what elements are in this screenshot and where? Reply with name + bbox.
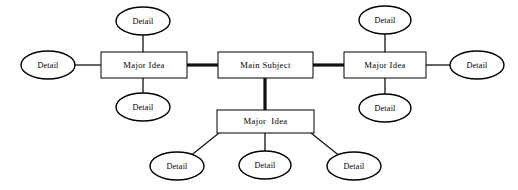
node-major-idea-left[interactable]: Major Idea: [101, 52, 187, 78]
node-detail-bottom-center[interactable]: Detail: [239, 151, 291, 179]
node-detail-bottom-left[interactable]: Detail: [150, 152, 204, 180]
detail-left-top-label: Detail: [132, 17, 154, 26]
main-subject-label: Main Subject: [240, 60, 291, 70]
detail-right-top-label: Detail: [374, 16, 396, 25]
node-detail-bottom-right[interactable]: Detail: [327, 152, 381, 180]
node-major-idea-right[interactable]: Major Idea: [344, 52, 426, 78]
detail-left-side-label: Detail: [37, 61, 59, 70]
detail-bottom-right-label: Detail: [343, 162, 365, 171]
node-detail-right-top[interactable]: Detail: [359, 6, 411, 34]
node-detail-right-side[interactable]: Detail: [450, 51, 504, 79]
major-idea-left-label: Major Idea: [123, 60, 164, 70]
connector-bottom-major-to-detail-right: [311, 133, 341, 157]
detail-right-bottom-label: Detail: [374, 104, 396, 113]
detail-bottom-center-label: Detail: [254, 161, 276, 170]
node-main-subject[interactable]: Main Subject: [218, 52, 313, 78]
diagram-canvas: Main Subject Major Idea Major Idea Major…: [0, 0, 518, 190]
major-idea-bottom-label: Major Idea: [244, 116, 288, 126]
node-detail-left-bottom[interactable]: Detail: [116, 93, 170, 121]
node-detail-right-bottom[interactable]: Detail: [359, 94, 411, 122]
node-detail-left-side[interactable]: Detail: [21, 51, 75, 79]
detail-bottom-left-label: Detail: [166, 162, 188, 171]
major-idea-right-label: Major Idea: [364, 60, 405, 70]
detail-left-bottom-label: Detail: [132, 103, 154, 112]
detail-node-layer: Detail Detail Detail Detail Detail: [21, 6, 504, 180]
detail-right-side-label: Detail: [466, 61, 488, 70]
node-detail-left-top[interactable]: Detail: [116, 7, 170, 35]
node-major-idea-bottom[interactable]: Major Idea: [217, 110, 314, 133]
concept-map-diagram: Main Subject Major Idea Major Idea Major…: [0, 0, 518, 190]
connector-bottom-major-to-detail-left: [189, 133, 219, 157]
